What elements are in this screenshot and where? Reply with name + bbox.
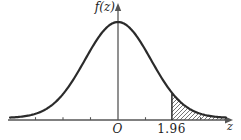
y-axis-arrow-icon bbox=[115, 3, 121, 11]
y-axis-label: f(z) bbox=[87, 1, 115, 13]
critical-value-label: 1.96 bbox=[155, 123, 188, 135]
origin-label: O bbox=[110, 123, 125, 135]
normal-distribution-figure: f(z) O 1.96 z bbox=[0, 0, 241, 140]
x-axis-label: z bbox=[224, 121, 236, 132]
plot-canvas bbox=[0, 0, 241, 140]
shaded-tail-region bbox=[172, 93, 226, 120]
